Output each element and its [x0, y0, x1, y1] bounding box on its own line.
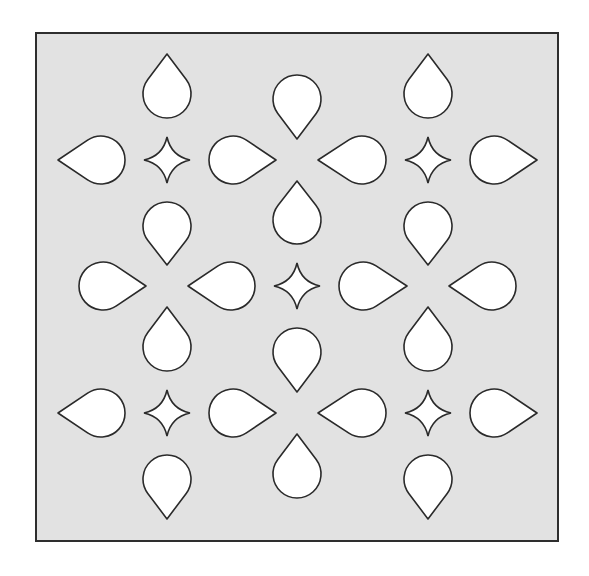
tile-pattern-figure	[0, 0, 589, 576]
